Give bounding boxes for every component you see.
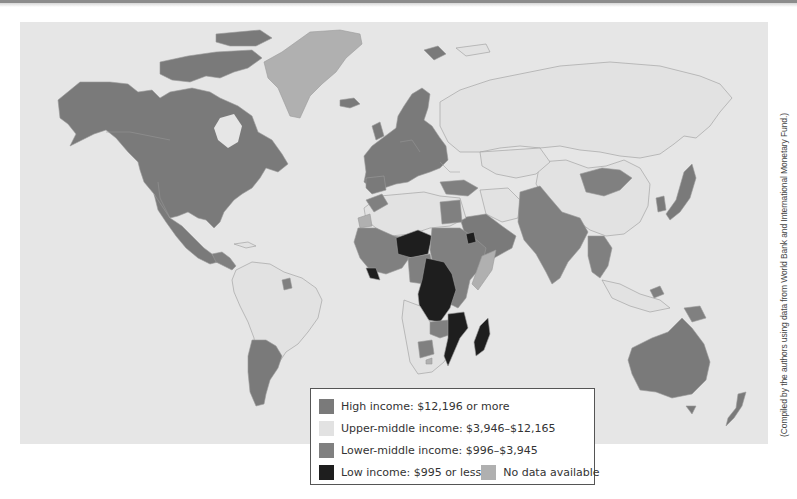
legend-label-no-data: No data available (503, 466, 599, 479)
region-japan (666, 164, 696, 220)
swatch-no-data (481, 465, 496, 480)
map-legend: High income: $12,196 or more Upper-middl… (310, 388, 595, 485)
legend-item-no-data: No data available (481, 465, 599, 480)
world-map-svg (20, 22, 768, 444)
legend-label-high-income: High income: $12,196 or more (341, 400, 510, 413)
region-turkey (440, 180, 478, 196)
swatch-upper-middle-income (319, 421, 334, 436)
source-note: (Compiled by the authors using data from… (779, 113, 789, 437)
legend-label-lower-middle-income: Lower-middle income: $996–$3,945 (341, 444, 538, 457)
region-north-america (58, 82, 288, 228)
swatch-low-income (319, 465, 334, 480)
legend-label-low-income: Low income: $995 or less (341, 466, 481, 479)
legend-item-high-income: High income: $12,196 or more (319, 395, 586, 417)
region-southeast-asia (588, 236, 612, 278)
legend-item-lower-middle-income: Lower-middle income: $996–$3,945 (319, 439, 586, 461)
legend-item-low-income: Low income: $995 or less (319, 465, 481, 480)
legend-item-upper-middle-income: Upper-middle income: $3,946–$12,165 (319, 417, 586, 439)
region-australia (628, 318, 710, 398)
swatch-high-income (319, 399, 334, 414)
region-russia (440, 62, 732, 158)
region-canadian-arctic (160, 50, 262, 82)
swatch-lower-middle-income (319, 443, 334, 458)
region-madagascar (474, 318, 490, 356)
world-income-map (20, 22, 768, 444)
legend-label-upper-middle-income: Upper-middle income: $3,946–$12,165 (341, 422, 556, 435)
region-central-america (212, 252, 236, 270)
legend-row-last: Low income: $995 or less No data availab… (319, 461, 586, 483)
region-southern-cone (248, 340, 282, 406)
region-south-america (232, 262, 322, 394)
region-new-zealand (726, 392, 746, 426)
top-border-fade (0, 3, 797, 7)
